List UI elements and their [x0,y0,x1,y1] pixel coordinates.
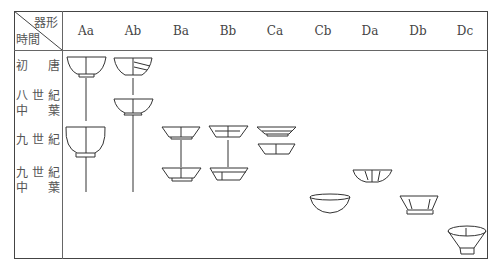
vessel-dc-latest [448,226,486,254]
vessel-cb-late [310,194,350,213]
vessel-ca-9th-upper [257,127,296,136]
vessel-db-late [400,196,438,214]
vessel-aa-9th [66,127,105,157]
vessel-drawings [0,0,500,273]
vessel-ab-mid-8th [114,99,153,115]
vessel-aa-early-tang [67,57,106,77]
vessel-bb-9th [209,126,248,137]
vessel-ba-9th [162,127,200,139]
vessel-bb-mid-9th [210,168,248,180]
vessel-da-mid-9th [353,170,392,182]
vessel-ab-early-tang [114,58,152,75]
vessel-ba-mid-9th [162,168,201,181]
vessel-ca-9th-lower [258,144,295,154]
